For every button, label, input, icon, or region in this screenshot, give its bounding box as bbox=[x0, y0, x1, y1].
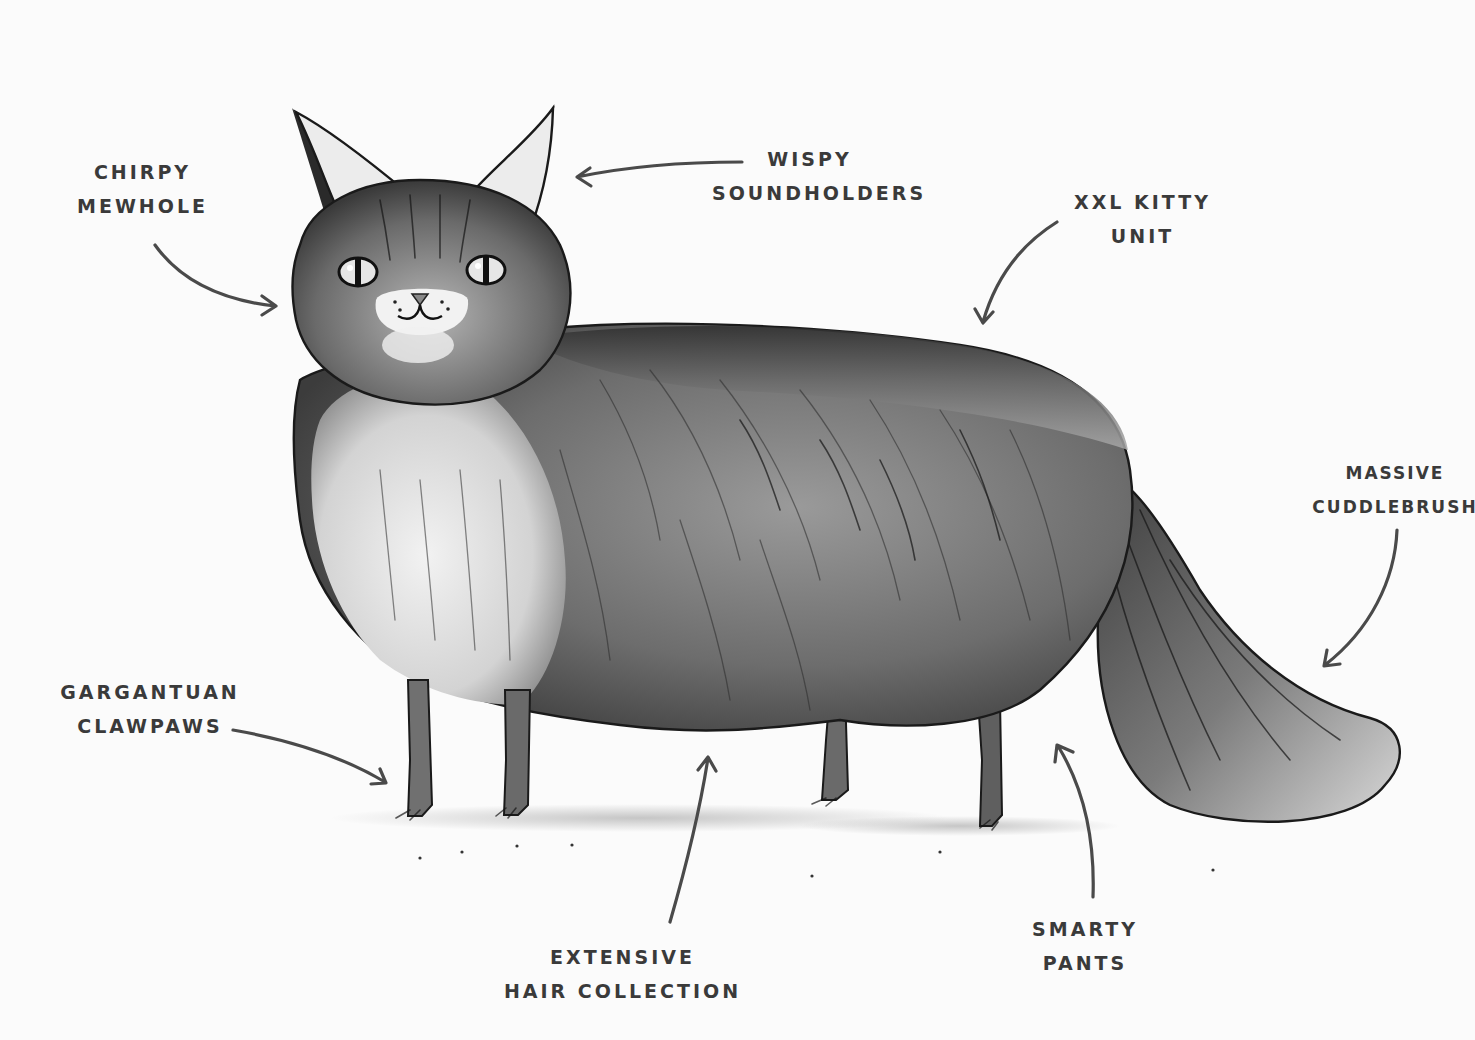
arrow-gargantuan-clawpaws bbox=[233, 730, 386, 784]
label-line: Wispy bbox=[712, 142, 907, 176]
label-line: Hair Collection bbox=[500, 974, 745, 1008]
label-massive-cuddlebrush: Massive Cuddlebrush bbox=[1300, 456, 1475, 524]
ground-shadow bbox=[330, 804, 1215, 878]
arrow-extensive-hair-collection bbox=[670, 757, 716, 922]
label-extensive-hair-collection: Extensive Hair Collection bbox=[500, 940, 745, 1008]
label-line: Clawpaws bbox=[50, 709, 250, 743]
label-line: Gargantuan bbox=[50, 675, 250, 709]
label-gargantuan-clawpaws: Gargantuan Clawpaws bbox=[50, 675, 250, 743]
front-legs bbox=[396, 680, 530, 820]
label-line: Soundholders bbox=[712, 176, 907, 210]
label-xxl-kitty-unit: XXL Kitty Unit bbox=[1055, 185, 1230, 253]
arrow-massive-cuddlebrush bbox=[1324, 530, 1397, 666]
label-line: Pants bbox=[1020, 946, 1150, 980]
label-line: Extensive bbox=[500, 940, 745, 974]
label-chirpy-mewhole: Chirpy Mewhole bbox=[60, 155, 225, 223]
label-line: Mewhole bbox=[60, 189, 225, 223]
label-line: Massive bbox=[1300, 456, 1475, 490]
label-line: Cuddlebrush bbox=[1300, 490, 1475, 524]
label-line: Chirpy bbox=[60, 155, 225, 189]
arrow-xxl-kitty-unit bbox=[975, 222, 1057, 323]
label-line: Unit bbox=[1055, 219, 1230, 253]
label-line: XXL Kitty bbox=[1055, 185, 1230, 219]
label-line: Smarty bbox=[1020, 912, 1150, 946]
label-smarty-pants: Smarty Pants bbox=[1020, 912, 1150, 980]
label-wispy-soundholders: Wispy Soundholders bbox=[712, 142, 907, 210]
head bbox=[292, 105, 570, 405]
arrow-chirpy-mewhole bbox=[155, 245, 276, 315]
